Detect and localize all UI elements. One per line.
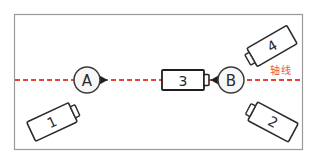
center-unit-block[interactable]: 3 [162,70,209,90]
schematic-diagram: 1 2 4 3 A [0,0,319,163]
node-b-label: B [226,72,236,90]
diagram-canvas: 1 2 4 3 A [0,0,319,163]
axis-line-label: 轴线 [270,64,291,76]
center-unit-connector-tab [204,75,209,86]
center-unit-label: 3 [179,73,188,89]
node-a-label: A [82,72,93,90]
